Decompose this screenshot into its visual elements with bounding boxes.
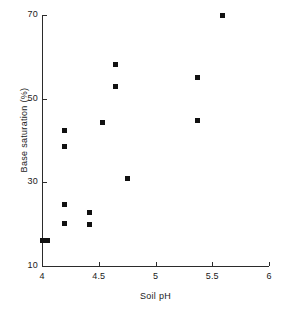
data-point-marker (87, 210, 92, 215)
x-tick-label: 5 (136, 272, 176, 281)
data-point-marker (195, 75, 200, 80)
x-axis-title: Soil pH (42, 291, 269, 301)
y-tick-mark (43, 182, 47, 183)
data-point-marker (62, 202, 67, 207)
y-axis-title: Base saturation (%) (19, 60, 29, 200)
data-point-marker (220, 13, 225, 18)
x-tick-mark (42, 262, 43, 266)
y-tick-label-text: 70 (4, 10, 38, 19)
data-point-marker (113, 84, 118, 89)
x-tick-mark (156, 262, 157, 266)
data-point-marker (125, 176, 130, 181)
data-point-marker (195, 118, 200, 123)
x-tick-label: 5.5 (192, 272, 232, 281)
data-point-marker (113, 62, 118, 67)
x-tick-label: 4.5 (79, 272, 119, 281)
y-tick-mark (43, 15, 47, 16)
y-tick-label-text: 10 (4, 261, 38, 270)
data-point-marker (62, 144, 67, 149)
y-tick-mark (43, 99, 47, 100)
data-point-marker (100, 120, 105, 125)
x-tick-label: 6 (249, 272, 289, 281)
data-point-marker (62, 128, 67, 133)
y-axis-line (42, 15, 43, 267)
data-point-marker (62, 221, 67, 226)
x-tick-mark (269, 262, 270, 266)
data-point-marker (45, 238, 50, 243)
scatter-chart: 10305070 44.555.56 Soil pH Base saturati… (0, 0, 295, 309)
x-tick-mark (212, 262, 213, 266)
y-tick-mark (43, 266, 47, 267)
plot-area (0, 0, 295, 309)
x-tick-label: 4 (22, 272, 62, 281)
x-tick-mark (99, 262, 100, 266)
x-axis-line (42, 266, 269, 267)
data-point-marker (87, 222, 92, 227)
